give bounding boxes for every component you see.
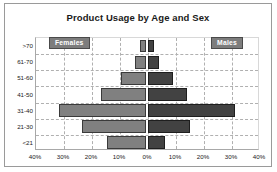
bar-females[interactable] bbox=[107, 136, 146, 149]
x-tick-label: 10% bbox=[104, 153, 134, 160]
y-axis-labels: >70 61-70 51-60 41-50 31-40 21-30 <21 bbox=[5, 37, 33, 150]
bar-males[interactable] bbox=[148, 56, 159, 69]
x-tick-label: 20% bbox=[188, 153, 218, 160]
bar-males[interactable] bbox=[148, 72, 173, 85]
bar-females[interactable] bbox=[101, 88, 146, 101]
pyramid-row bbox=[36, 70, 258, 86]
bar-males[interactable] bbox=[148, 104, 235, 117]
x-tick-label: 40% bbox=[20, 153, 50, 160]
x-tick-label: 30% bbox=[216, 153, 246, 160]
y-tick-label: 31-40 bbox=[7, 106, 33, 113]
pyramid-row bbox=[36, 86, 258, 102]
x-axis-labels: 40% 30% 20% 10% 0% 10% 20% 30% 40% bbox=[35, 153, 259, 165]
pyramid-row bbox=[36, 119, 258, 135]
bar-females[interactable] bbox=[59, 104, 146, 117]
y-tick-label: 41-50 bbox=[7, 90, 33, 97]
bar-females[interactable] bbox=[82, 120, 146, 133]
pyramid-row bbox=[36, 135, 258, 151]
pyramid-row bbox=[36, 103, 258, 119]
chart-container: Product Usage by Age and Sex >70 61-70 5… bbox=[4, 3, 272, 167]
x-tick-label: 30% bbox=[48, 153, 78, 160]
bar-females[interactable] bbox=[135, 56, 146, 69]
x-tick-label: 20% bbox=[76, 153, 106, 160]
y-tick-label: 21-30 bbox=[7, 122, 33, 129]
bar-males[interactable] bbox=[148, 136, 165, 149]
plot-area bbox=[35, 37, 259, 150]
y-tick-label: 51-60 bbox=[7, 74, 33, 81]
legend-label-males: Males bbox=[211, 37, 243, 49]
x-tick-label: 0% bbox=[132, 153, 162, 160]
y-tick-label: >70 bbox=[7, 42, 33, 49]
bar-females[interactable] bbox=[140, 40, 146, 53]
chart-title: Product Usage by Age and Sex bbox=[5, 12, 271, 23]
legend-label-females: Females bbox=[49, 37, 90, 49]
x-tick-label: 40% bbox=[244, 153, 274, 160]
bar-females[interactable] bbox=[121, 72, 146, 85]
pyramid-row bbox=[36, 54, 258, 70]
y-tick-label: <21 bbox=[7, 138, 33, 145]
y-tick-label: 61-70 bbox=[7, 58, 33, 65]
bar-males[interactable] bbox=[148, 40, 154, 53]
bar-males[interactable] bbox=[148, 120, 190, 133]
bar-males[interactable] bbox=[148, 88, 187, 101]
x-tick-label: 10% bbox=[160, 153, 190, 160]
